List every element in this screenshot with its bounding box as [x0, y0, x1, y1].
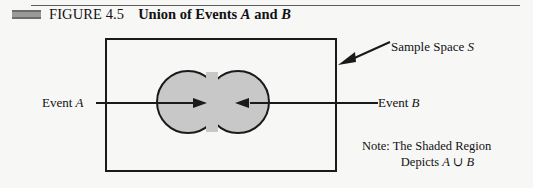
event-a-label: Event A	[42, 95, 84, 111]
event-b-label: Event B	[378, 95, 420, 111]
event-a-label-symbol: A	[76, 95, 84, 110]
figure-title-label: Union of Events A and B	[138, 6, 291, 22]
sample-space-label: Sample Space S	[391, 39, 474, 55]
event-b-label-symbol: B	[412, 95, 420, 110]
event-a-arrowhead-icon	[193, 98, 207, 108]
figure-note-line-1: Note: The Shaded Region	[362, 138, 527, 154]
sample-space-arrow-icon	[336, 40, 392, 66]
sample-space-label-symbol: S	[468, 39, 475, 54]
figure-title-symbol-b: B	[281, 6, 291, 22]
event-a-label-prefix: Event	[42, 95, 76, 110]
event-intersection-shading	[206, 72, 218, 132]
sample-space-pointer	[336, 40, 392, 66]
figure-note-line-2: Depicts A ∪ B	[362, 154, 527, 170]
figure-container: FIGURE 4.5Union of Events A and B Event …	[0, 0, 533, 188]
figure-note: Note: The Shaded Region Depicts A ∪ B	[362, 138, 527, 170]
figure-note-symbol-b: B	[467, 155, 475, 169]
figure-title-text-2: and	[251, 6, 282, 22]
event-b-label-prefix: Event	[378, 95, 412, 110]
figure-title-text-1: Union of Events	[138, 6, 241, 22]
event-a-pointer-line	[96, 102, 196, 104]
figure-note-symbol-a: A	[442, 155, 450, 169]
figure-note-prefix: Depicts	[401, 155, 442, 169]
figure-caption: FIGURE 4.5Union of Events A and B	[49, 5, 291, 23]
event-b-pointer-line	[250, 102, 378, 104]
figure-title-symbol-a: A	[241, 6, 251, 22]
figure-marker-bar-icon	[12, 10, 41, 19]
sample-space-label-prefix: Sample Space	[391, 39, 468, 54]
figure-number-label: FIGURE 4.5	[49, 6, 124, 22]
figure-note-union-operator: ∪	[450, 155, 467, 169]
event-b-arrowhead-icon	[235, 98, 249, 108]
